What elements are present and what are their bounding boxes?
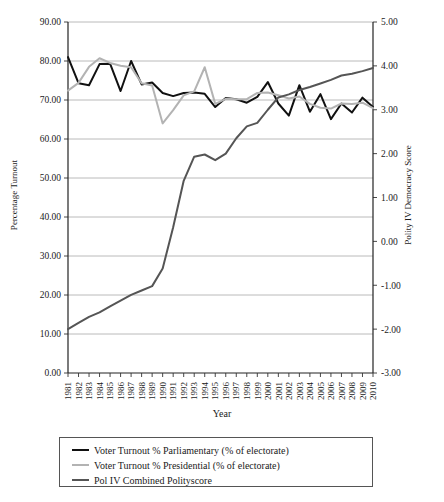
series-line [68, 68, 373, 329]
y-tick-label-left: 0.00 [44, 368, 61, 378]
x-tick-label: 1993 [189, 382, 199, 401]
legend-label-presidential: Voter Turnout % Presidential (% of elect… [94, 460, 280, 471]
x-tick-label: 1992 [179, 382, 189, 400]
x-tick-label: 1996 [221, 382, 231, 401]
x-tick-label: 1981 [63, 382, 73, 400]
x-tick-label: 2010 [368, 382, 378, 401]
x-tick-label: 2004 [305, 382, 315, 401]
series-line [68, 57, 373, 119]
x-tick-label: 2008 [347, 382, 357, 401]
series-line [68, 58, 373, 123]
x-tick-label: 1991 [168, 382, 178, 400]
legend-swatch-parliamentary [72, 449, 89, 451]
x-tick-label: 1985 [105, 382, 115, 401]
y-tick-label-right: 2.00 [381, 149, 398, 159]
chart-container: 0.0010.0020.0030.0040.0050.0060.0070.008… [0, 0, 444, 502]
x-tick-label: 1983 [84, 382, 94, 401]
y-tick-label-left: 60.00 [40, 134, 62, 144]
y-axis-label-left: Percentage Turnout [9, 125, 19, 265]
y-axis-label-right: Polity IV Democracy Score [403, 115, 413, 275]
y-tick-label-left: 90.00 [40, 17, 62, 27]
x-tick-label: 1986 [116, 382, 126, 401]
x-tick-label: 1995 [210, 382, 220, 401]
legend-swatch-polity [72, 479, 89, 481]
y-tick-label-left: 20.00 [40, 290, 62, 300]
x-tick-label: 1984 [95, 382, 105, 401]
y-tick-label-left: 50.00 [40, 173, 62, 183]
legend-item: Voter Turnout % Parliamentary (% of elec… [72, 443, 372, 457]
x-tick-label: 2006 [326, 382, 336, 401]
x-tick-label: 1997 [231, 382, 241, 401]
x-tick-label: 2000 [263, 382, 273, 401]
x-tick-label: 1987 [126, 382, 136, 401]
x-tick-label: 2001 [274, 382, 284, 400]
legend-item: Pol IV Combined Polityscore [72, 473, 372, 487]
x-tick-label: 1982 [74, 382, 84, 400]
x-tick-label: 2009 [358, 382, 368, 401]
y-tick-label-right: -2.00 [381, 325, 401, 335]
y-tick-label-right: 3.00 [381, 105, 398, 115]
line-chart-plot: 0.0010.0020.0030.0040.0050.0060.0070.008… [0, 0, 444, 432]
x-tick-label: 1990 [158, 382, 168, 401]
y-tick-label-right: -3.00 [381, 368, 401, 378]
y-tick-label-left: 80.00 [40, 56, 62, 66]
x-tick-label: 1988 [137, 382, 147, 401]
y-tick-label-left: 40.00 [40, 212, 62, 222]
y-tick-label-left: 70.00 [40, 95, 62, 105]
x-tick-label: 2002 [284, 382, 294, 400]
x-tick-label: 1989 [147, 382, 157, 401]
legend-item: Voter Turnout % Presidential (% of elect… [72, 458, 372, 472]
legend-label-polity: Pol IV Combined Polityscore [94, 475, 212, 486]
legend-swatch-presidential [72, 464, 89, 466]
y-tick-label-right: -1.00 [381, 281, 401, 291]
x-axis-label: Year [0, 408, 444, 419]
y-tick-label-right: 0.00 [381, 237, 398, 247]
y-tick-label-right: 5.00 [381, 17, 398, 27]
chart-legend: Voter Turnout % Parliamentary (% of elec… [59, 437, 373, 487]
x-tick-label: 1998 [242, 382, 252, 401]
x-tick-label: 2007 [337, 382, 347, 401]
y-tick-label-left: 10.00 [40, 329, 62, 339]
y-tick-label-right: 1.00 [381, 193, 398, 203]
legend-label-parliamentary: Voter Turnout % Parliamentary (% of elec… [94, 445, 289, 456]
x-tick-label: 2003 [295, 382, 305, 401]
y-tick-label-right: 4.00 [381, 61, 398, 71]
y-tick-label-left: 30.00 [40, 251, 62, 261]
x-tick-label: 1999 [253, 382, 263, 401]
x-tick-label: 1994 [200, 382, 210, 401]
x-tick-label: 2005 [316, 382, 326, 401]
